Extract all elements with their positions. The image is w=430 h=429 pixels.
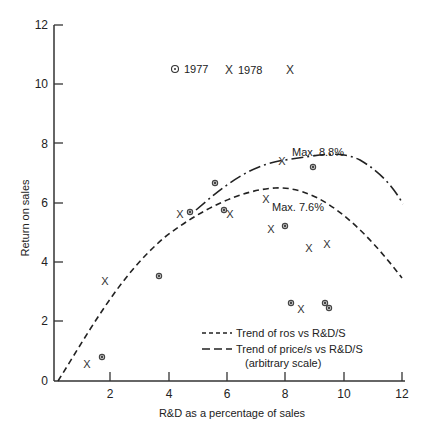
point-1977 [187,209,192,214]
x-axis-label: R&D as a percentage of sales [159,407,306,419]
point-1978: X [278,155,286,167]
y-tick-label: 6 [41,196,48,210]
point-1977 [156,273,161,278]
x-tick-labels: 2 4 6 8 10 12 [107,387,409,401]
line-legend: Trend of ros vs R&D/S Trend of price/s v… [202,327,363,369]
legend-price-sub: (arbitrary scale) [245,357,321,369]
marker-legend: 1977 X 1978 X [172,63,295,77]
y-tick-label: 4 [41,255,48,269]
x-tick-label: 12 [395,387,409,401]
x-tick-label: 8 [282,387,289,401]
x-marker-icon: X [286,63,294,77]
point-1978: X [323,238,331,250]
x-ticks [110,372,402,381]
x-tick-label: 2 [107,387,114,401]
point-1977 [310,164,315,169]
chart: 0 2 4 6 8 10 12 2 4 6 8 10 12 R&D as a p… [0,0,430,429]
y-tick-label: 12 [35,18,49,32]
point-1977 [326,305,331,310]
legend-1978-label: 1978 [238,64,262,76]
point-1978: X [305,242,313,254]
legend-1977-label: 1977 [184,63,208,75]
x-marker-icon: X [225,63,233,77]
x-tick-label: 4 [166,387,173,401]
x-tick-label: 10 [337,387,351,401]
point-1978: X [262,193,270,205]
y-tick-labels: 0 2 4 6 8 10 12 [35,18,49,388]
point-1978: X [226,208,234,220]
point-1977 [282,223,287,228]
point-1977 [322,300,327,305]
x-tick-label: 6 [224,387,231,401]
legend-price-label: Trend of price/s vs R&D/S [236,343,363,355]
annotation-max-ros: Max. 7.6% [272,201,324,213]
point-1978: X [101,275,109,287]
y-tick-label: 10 [35,77,49,91]
annotation-max-price: Max. 8.8% [292,146,344,158]
y-tick-label: 2 [41,314,48,328]
legend-ros-label: Trend of ros vs R&D/S [236,327,346,339]
y-tick-label: 8 [41,137,48,151]
y-tick-label: 0 [41,374,48,388]
point-1978: X [176,208,184,220]
y-ticks [54,25,63,321]
point-1978: X [83,358,91,370]
y-axis-label: Return on sales [19,179,31,257]
point-1978: X [267,223,275,235]
point-1977 [288,300,293,305]
point-1978: X [297,303,305,315]
point-1977 [212,180,217,185]
point-1977 [99,354,104,359]
